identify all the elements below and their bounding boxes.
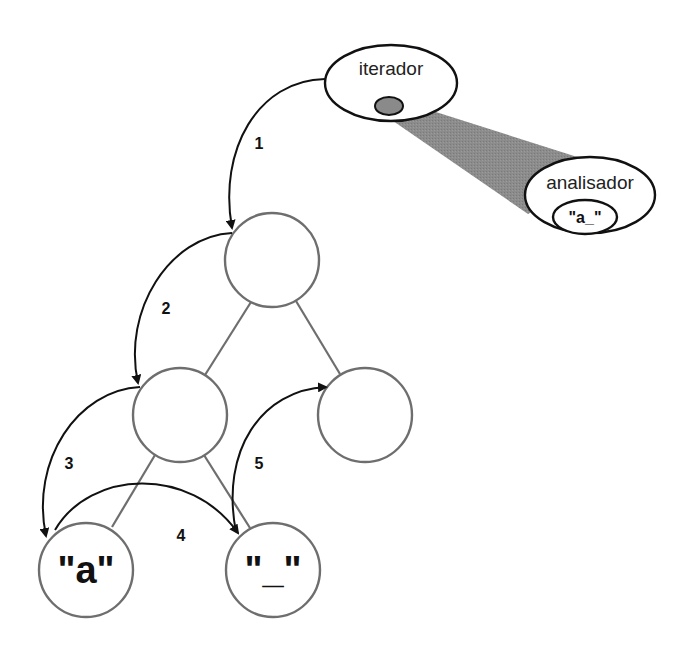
- iterator-node: iterador: [325, 45, 457, 121]
- tree-node-left: [133, 368, 227, 462]
- step-label-5: 5: [255, 455, 264, 472]
- arrow-step-3: [43, 387, 140, 536]
- step-label-1: 1: [255, 135, 264, 152]
- parser-label: analisador: [546, 172, 634, 193]
- step-label-4: 4: [177, 527, 186, 544]
- leaf-a-label: "a": [57, 549, 114, 591]
- parser-node: analisador "a_": [525, 157, 655, 234]
- edge-left-leaf-underscore: [204, 455, 250, 528]
- edge-root-right: [296, 301, 340, 374]
- tree-node-right: [318, 368, 412, 462]
- tree-traversal-diagram: iterador analisador "a_" "a" "_" 1 2 3 4…: [0, 0, 686, 654]
- traversal-arrows: [43, 79, 326, 536]
- parser-buffer-label: "a_": [569, 209, 602, 226]
- edge-root-left: [205, 302, 251, 375]
- iterator-label: iterador: [359, 58, 424, 79]
- arrow-step-2: [135, 233, 232, 383]
- step-label-2: 2: [162, 300, 171, 317]
- iterator-pointer: [375, 97, 403, 115]
- arrow-step-5: [233, 387, 326, 532]
- edge-left-leaf-a: [112, 455, 155, 527]
- step-label-3: 3: [65, 455, 74, 472]
- tree-node-root: [225, 213, 319, 307]
- leaf-underscore-label: "_": [244, 549, 301, 591]
- arrow-step-1: [229, 79, 325, 228]
